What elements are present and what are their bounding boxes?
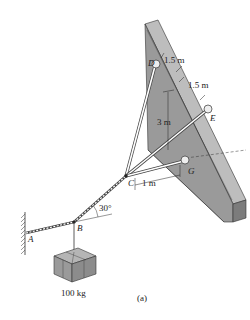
dim-height: 3 m xyxy=(157,117,171,127)
figure-caption: (a) xyxy=(137,293,147,303)
mass-label: 100 kg xyxy=(61,288,86,298)
label-c: C xyxy=(128,178,135,188)
label-d: D xyxy=(147,58,155,68)
eyebolt-e xyxy=(204,105,212,113)
label-a: A xyxy=(27,234,34,244)
dim-de-2: 1.5 m xyxy=(188,80,209,90)
wall-support-a xyxy=(21,212,25,255)
label-b: B xyxy=(77,223,83,233)
dim-offset: 1 m xyxy=(142,178,156,188)
statics-diagram: D 1.5 m 1.5 m E 3 m G C 1 m 30° B A 100 … xyxy=(0,0,250,320)
dim-de-1: 1.5 m xyxy=(164,55,185,65)
eyebolt-g xyxy=(181,156,189,164)
label-g: G xyxy=(188,166,195,176)
angle-label: 30° xyxy=(99,203,112,213)
mass-box xyxy=(54,248,96,282)
label-e: E xyxy=(209,113,216,123)
